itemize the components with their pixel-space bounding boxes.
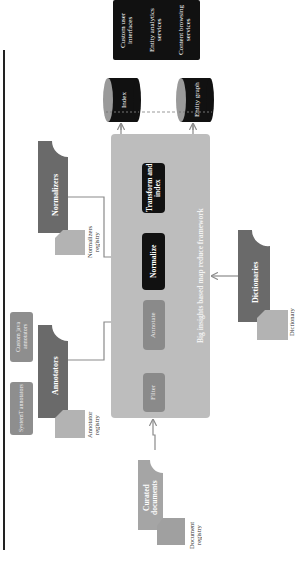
step-filter: Filter xyxy=(143,373,165,412)
curated-documents-label: Curated documents xyxy=(140,470,162,526)
index-label: Index xyxy=(112,78,137,122)
entity-graph-label: Entity graph xyxy=(185,78,210,122)
normalizers-label: Normalizers xyxy=(46,160,66,230)
annotator-registry-label: Annotator registry xyxy=(87,405,101,445)
normalizers-registry-shape xyxy=(55,230,85,255)
framework-title: Big insights based map reduce framework xyxy=(194,140,208,412)
step-annotate: Annotate xyxy=(143,300,165,350)
document-registry-label: Document registry xyxy=(187,515,205,555)
systemt-annotators: SystemT annotators xyxy=(10,382,33,435)
annotator-registry-shape xyxy=(55,410,85,438)
step-normalize: Normalize xyxy=(142,233,165,290)
dictionary-registry-label: Dictionary xyxy=(288,300,296,345)
custom-java-annotators: Custom java annotators xyxy=(10,312,33,362)
annotators-label: Annotators xyxy=(46,340,66,412)
dictionaries-label: Dictionaries xyxy=(246,248,266,316)
normalizers-registry-label: Normalizers registry xyxy=(87,222,101,262)
step-transform-index: Transform and index xyxy=(142,163,165,213)
